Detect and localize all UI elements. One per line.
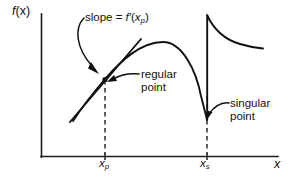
x-tick-label-xp: xp: [99, 157, 109, 170]
x-tick-label-xs-subscript: s: [206, 162, 210, 171]
x-axis-label: x: [274, 157, 280, 171]
slope-annotation: slope = f′(xp): [85, 11, 149, 24]
regular-point-marker: [102, 77, 107, 82]
singular-point-annotation-line1: singular: [230, 97, 270, 109]
singular-point-annotation-line2: point: [230, 110, 255, 122]
x-tick-label-xp-subscript: p: [105, 162, 109, 171]
y-axis-label: f(x): [12, 4, 30, 18]
function-curve-left-branch: [73, 42, 207, 121]
slope-leader-line: [78, 18, 92, 66]
function-curve-right-branch: [207, 15, 263, 49]
regular-point-annotation: regularpoint: [141, 68, 177, 94]
y-axis-label-arg: (x): [15, 4, 30, 18]
figure-root: f(x) x slope = f′(xp) regularpoint singu…: [0, 0, 292, 180]
singular-point-leader-arrowhead: [207, 111, 213, 120]
regular-point-annotation-line2: point: [141, 81, 166, 93]
slope-annotation-paren-close: ): [145, 11, 149, 23]
x-tick-label-xs: xs: [200, 157, 210, 170]
regular-point-leader-line: [113, 74, 139, 79]
slope-annotation-lead: slope =: [85, 11, 126, 23]
singular-point-annotation: singularpoint: [230, 97, 270, 123]
regular-point-annotation-line1: regular: [141, 68, 177, 80]
